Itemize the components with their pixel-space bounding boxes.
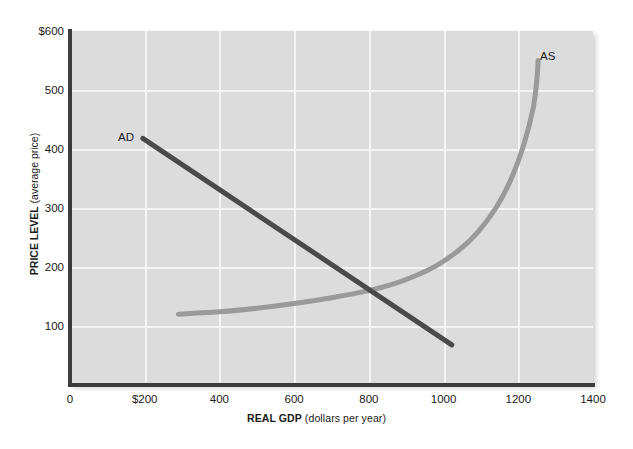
y-axis-title: PRICE LEVEL (average price) xyxy=(28,74,40,334)
x-tick-label: $200 xyxy=(115,393,175,406)
x-axis-title-bold: REAL GDP xyxy=(247,412,302,424)
aggregate-supply-demand-chart: AD AS $600 500 400 300 200 100 0 $200 40… xyxy=(0,0,633,449)
ad-curve-label: AD xyxy=(118,131,134,143)
y-axis-title-bold: PRICE LEVEL xyxy=(28,206,40,275)
y-tick-label: $600 xyxy=(0,25,64,37)
x-axis-title: REAL GDP (dollars per year) xyxy=(0,412,633,424)
x-tick-label: 400 xyxy=(189,393,249,406)
x-tick-label: 800 xyxy=(339,393,399,406)
x-tick-label: 0 xyxy=(40,393,100,406)
curves-layer xyxy=(0,0,633,449)
as-curve-label: AS xyxy=(540,50,555,62)
as-curve xyxy=(178,61,538,315)
x-tick-label: 1000 xyxy=(414,393,474,406)
x-tick-label: 600 xyxy=(264,393,324,406)
y-axis-title-rest: (average price) xyxy=(28,133,40,207)
x-tick-label: 1400 xyxy=(563,393,623,406)
x-axis-title-rest: (dollars per year) xyxy=(302,412,386,424)
x-tick-label: 1200 xyxy=(488,393,548,406)
